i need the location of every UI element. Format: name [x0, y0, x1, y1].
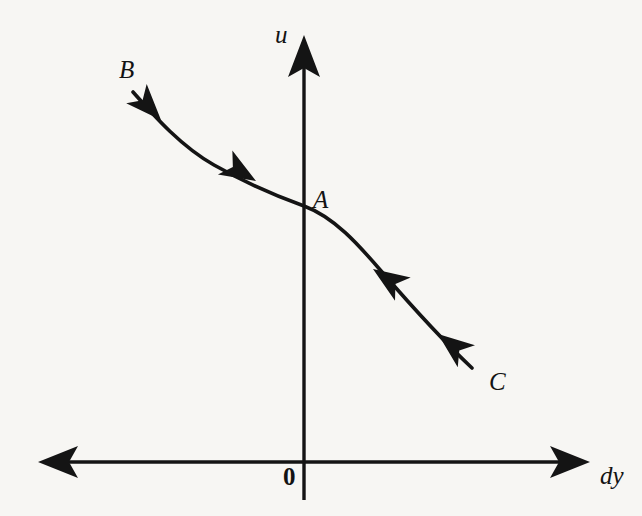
vertical-axis-label: u [275, 22, 288, 47]
diagram-svg [0, 0, 642, 516]
origin-label: 0 [283, 464, 296, 489]
horizontal-axis-label: dy [600, 463, 624, 488]
point-label-a: A [313, 187, 328, 212]
figure-canvas: u dy 0 A B C [0, 0, 642, 516]
point-label-b: B [119, 57, 134, 82]
point-label-c: C [489, 369, 506, 394]
